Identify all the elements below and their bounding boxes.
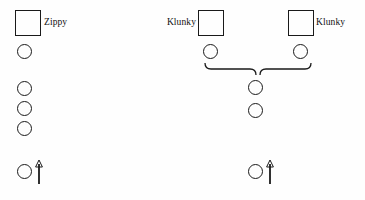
circle-parent-right[interactable] xyxy=(293,44,308,59)
circle-left-2[interactable] xyxy=(17,81,32,96)
arrow-proband-left-icon xyxy=(36,160,43,184)
square-zippy[interactable] xyxy=(15,10,41,36)
circle-left-5[interactable] xyxy=(17,164,32,179)
square-klunky-left[interactable] xyxy=(198,10,224,36)
circle-left-1[interactable] xyxy=(17,44,32,59)
brace-left-icon xyxy=(205,63,256,75)
circle-child-2[interactable] xyxy=(248,103,263,118)
label-klunky-right: Klunky xyxy=(316,18,345,28)
circle-child-3[interactable] xyxy=(248,164,263,179)
circle-child-1[interactable] xyxy=(248,80,263,95)
arrow-proband-right-icon xyxy=(267,160,274,184)
square-klunky-right[interactable] xyxy=(288,10,314,36)
label-zippy: Zippy xyxy=(44,18,67,28)
circle-left-4[interactable] xyxy=(17,121,32,136)
label-klunky-left: Klunky xyxy=(167,18,196,28)
brace-right-icon xyxy=(260,63,311,75)
circle-parent-left[interactable] xyxy=(203,44,218,59)
circle-left-3[interactable] xyxy=(17,101,32,116)
pedigree-diagram: Zippy Klunky Klunky xyxy=(0,0,365,200)
